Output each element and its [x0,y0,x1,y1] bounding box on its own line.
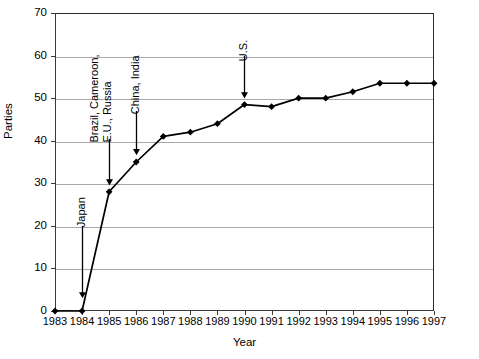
y-axis-tick-label: 30 [0,177,47,189]
x-axis-tick-mark [407,311,408,315]
x-axis-tick-mark [136,311,137,315]
x-axis-tick-mark [434,311,435,315]
gridline [56,227,433,228]
y-axis-title: Parties [2,103,14,139]
y-axis-tick-label: 20 [0,220,47,232]
x-axis-title: Year [215,336,275,348]
y-axis-tick-label: 70 [0,7,47,19]
x-axis-tick-mark [163,311,164,315]
x-axis-tick-mark [82,311,83,315]
line-chart: 010203040506070 Parties 1983198419851986… [0,0,479,359]
annotation-arrow-icon [238,56,251,101]
x-axis-tick-mark [326,311,327,315]
gridline [56,269,433,270]
x-axis-tick-mark [353,311,354,315]
x-axis-tick-mark [217,311,218,315]
annotation-label: Brazil, Cameroon, [88,55,101,143]
y-axis-tick-mark [51,13,55,14]
x-axis-tick-mark [272,311,273,315]
annotation-label: Japan [74,197,86,227]
annotation-label: E.U., Russia [101,82,114,143]
x-axis-tick-mark [245,311,246,315]
y-axis-tick-mark [51,311,55,312]
y-axis-tick-label: 60 [0,50,47,62]
y-axis-tick-mark [51,226,55,227]
x-axis-tick-mark [190,311,191,315]
annotation-arrow-icon [76,226,89,300]
y-axis-tick-label: 10 [0,262,47,274]
annotation-arrow-icon [103,139,116,187]
y-axis-tick-mark [51,56,55,57]
annotation-label: China, India [129,56,141,115]
annotation-arrow-icon [130,111,143,157]
y-axis-tick-label: 50 [0,92,47,104]
x-axis-tick-mark [109,311,110,315]
x-axis-tick-mark [299,311,300,315]
y-axis-tick-mark [51,183,55,184]
x-axis-tick-label: 1997 [417,316,451,327]
y-axis-tick-mark [51,98,55,99]
x-axis-tick-mark [380,311,381,315]
y-axis-tick-label: 0 [0,305,47,317]
y-axis-tick-mark [51,141,55,142]
y-axis-tick-mark [51,268,55,269]
